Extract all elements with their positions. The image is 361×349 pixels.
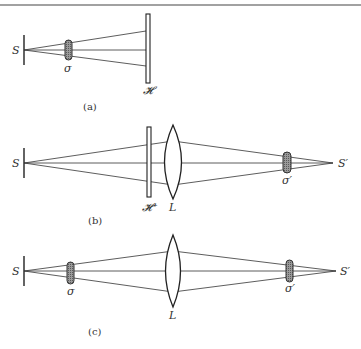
- caption-c: (c): [88, 326, 102, 337]
- ray-upper: [24, 31, 146, 50]
- label-image-source: S′: [338, 157, 349, 170]
- object-sigma: [67, 262, 74, 284]
- panel-a: S σ 𝓗 (a): [12, 14, 158, 112]
- label-lens: L: [168, 201, 176, 214]
- object-sigma: [65, 40, 72, 60]
- label-hologram-plus: 𝓗⁺: [142, 201, 158, 214]
- label-source: S: [12, 265, 20, 278]
- label-source: S: [12, 157, 20, 170]
- caption-a: (a): [83, 101, 97, 112]
- hologram-plate: [146, 14, 150, 83]
- caption-b: (b): [88, 215, 102, 226]
- panel-b: S 𝓗⁺ L σ′ S′ (b): [12, 125, 349, 226]
- label-object: σ: [67, 285, 75, 298]
- panel-c: S σ L σ′ S′ (c): [12, 235, 351, 337]
- optics-figure: S σ 𝓗 (a) S 𝓗⁺ L σ′ S′ (b) S σ L σ′ S′ (…: [0, 0, 361, 349]
- label-object: σ: [64, 62, 72, 75]
- label-source: S: [12, 44, 20, 57]
- label-image-source: S′: [340, 265, 351, 278]
- label-hologram: 𝓗: [143, 84, 158, 97]
- label-image-object: σ′: [285, 282, 296, 295]
- ray-lower: [24, 50, 146, 66]
- image-sigma-prime: [286, 260, 293, 282]
- label-lens: L: [168, 309, 176, 322]
- lens: [166, 235, 181, 307]
- hologram-plus-plate: [147, 127, 151, 197]
- label-image-object: σ′: [282, 174, 293, 187]
- lens: [165, 125, 182, 199]
- image-sigma-prime: [283, 152, 291, 173]
